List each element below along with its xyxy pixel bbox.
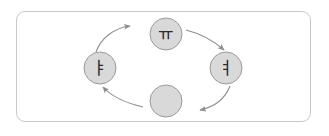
node-right-label: ㅕ	[218, 58, 234, 78]
node-top-label: ㅠ	[158, 24, 174, 44]
node-top[interactable]: ㅠ	[150, 18, 182, 50]
diagram-canvas: ㅠ ㅕ ㅑ	[0, 0, 329, 136]
edge-bottom-to-left	[103, 87, 143, 107]
node-left-label: ㅑ	[92, 58, 108, 78]
node-bottom-circle[interactable]	[150, 85, 182, 117]
edge-top-to-right	[186, 30, 224, 50]
edge-left-to-top	[96, 26, 130, 52]
node-right[interactable]: ㅕ	[210, 52, 242, 84]
edge-right-to-bottom	[200, 86, 230, 110]
cycle-diagram: ㅠ ㅕ ㅑ	[0, 0, 329, 136]
node-bottom[interactable]	[150, 85, 182, 117]
node-left[interactable]: ㅑ	[84, 52, 116, 84]
